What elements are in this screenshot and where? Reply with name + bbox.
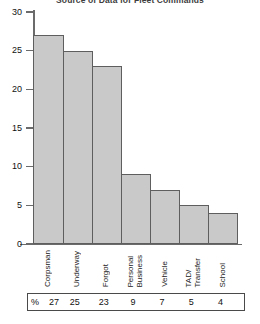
x-axis-category-labels: CorpsmanUnderwayForgotPersonalBusinessVe… <box>33 247 237 289</box>
x-axis-category-label-text: TAD/Transfer <box>184 258 202 288</box>
bar-chart-figure: Source of Data for Fleet Commands 051015… <box>0 0 260 324</box>
x-axis-category-label: Vehicle <box>150 247 179 287</box>
bar <box>33 35 64 244</box>
bar <box>62 51 93 244</box>
x-axis-category-label-text: PersonalBusiness <box>126 255 144 287</box>
x-axis-category-label-text: School <box>218 263 227 287</box>
bar <box>179 205 210 244</box>
bar <box>208 213 239 244</box>
y-axis-tick-label: 15 <box>0 124 22 133</box>
y-axis-tick-label: 30 <box>0 8 22 17</box>
x-axis-category-label: Underway <box>62 247 91 287</box>
x-axis-category-label: School <box>208 247 237 287</box>
table-value-cell: 27 <box>49 295 60 310</box>
x-axis-category-label-text: Underway <box>72 251 81 287</box>
chart-title: Source of Data for Fleet Commands <box>0 0 260 6</box>
table-value-cell: 7 <box>148 295 177 310</box>
data-value-table: % 2725239754 <box>27 293 245 311</box>
y-axis-tick-label: 25 <box>0 46 22 55</box>
table-value-cell: 5 <box>177 295 206 310</box>
x-axis-category-label: Corpsman <box>33 247 62 287</box>
x-axis-category-label-text: Forgot <box>101 264 110 287</box>
plot-area <box>33 12 237 244</box>
bar <box>91 66 122 244</box>
table-value-cell: 4 <box>206 295 235 310</box>
y-axis-tick-label: 20 <box>0 85 22 94</box>
x-axis-category-label: Forgot <box>91 247 120 287</box>
y-axis-tick-label: 10 <box>0 162 22 171</box>
x-axis-category-label-text: Corpsman <box>43 250 52 287</box>
table-percent-symbol: % <box>28 295 49 310</box>
y-axis-tick-label: 5 <box>0 201 22 210</box>
bar <box>120 174 151 244</box>
x-axis-category-label-text: Vehicle <box>160 261 169 287</box>
bar <box>150 190 181 244</box>
x-axis-category-label: PersonalBusiness <box>120 247 149 287</box>
table-value-cell: 25 <box>60 295 89 310</box>
y-axis-tick-label: 0 <box>0 240 22 249</box>
table-value-cell: 23 <box>89 295 118 310</box>
x-axis-category-label: TAD/Transfer <box>179 247 208 287</box>
table-value-cell: 9 <box>118 295 147 310</box>
